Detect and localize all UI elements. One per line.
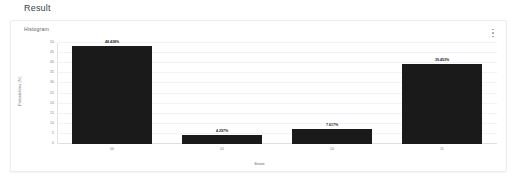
- result-page: Result Histogram Probabilities (%) 05101…: [0, 0, 517, 181]
- bar[interactable]: [402, 64, 481, 144]
- more-dot: [492, 29, 493, 30]
- y-tick-label: 50: [50, 40, 54, 44]
- x-tick-label: 11: [387, 147, 497, 151]
- bar[interactable]: [292, 129, 371, 144]
- bar-group[interactable]: 48.438%00: [57, 43, 167, 144]
- y-tick-label: 10: [50, 121, 54, 125]
- x-tick-label: 01: [167, 147, 277, 151]
- y-tick-label: 20: [50, 101, 54, 105]
- bar-value-label: 48.438%: [57, 40, 167, 44]
- x-tick-label: 00: [57, 147, 167, 151]
- y-tick-label: 30: [50, 80, 54, 84]
- page-title: Result: [24, 3, 51, 13]
- bar-group[interactable]: 39.453%11: [387, 43, 497, 144]
- bar-group[interactable]: 7.617%10: [277, 43, 387, 144]
- y-tick-label: 25: [50, 91, 54, 95]
- chart-label: Histogram: [24, 26, 49, 32]
- y-tick-label: 0: [52, 141, 54, 145]
- y-tick-label: 5: [52, 131, 54, 135]
- x-axis-title: State: [11, 161, 508, 166]
- bar-value-label: 39.453%: [387, 58, 497, 62]
- bar[interactable]: [72, 46, 151, 144]
- y-tick-label: 40: [50, 60, 54, 64]
- y-tick-label: 35: [50, 70, 54, 74]
- histogram-card: Histogram Probabilities (%) 051015202530…: [10, 20, 507, 172]
- y-tick-label: 45: [50, 50, 54, 54]
- chart-plot-area: Probabilities (%) 05101520253035404550 4…: [11, 37, 508, 173]
- bar-group[interactable]: 4.297%01: [167, 43, 277, 144]
- bar-value-label: 7.617%: [277, 123, 387, 127]
- bar[interactable]: [182, 135, 261, 144]
- bar-value-label: 4.297%: [167, 129, 277, 133]
- more-dot: [492, 32, 493, 33]
- y-axis-title: Probabilities (%): [18, 60, 22, 122]
- x-tick-label: 10: [277, 147, 387, 151]
- chart-bars: 48.438%004.297%017.617%1039.453%11: [57, 43, 497, 144]
- y-tick-label: 15: [50, 111, 54, 115]
